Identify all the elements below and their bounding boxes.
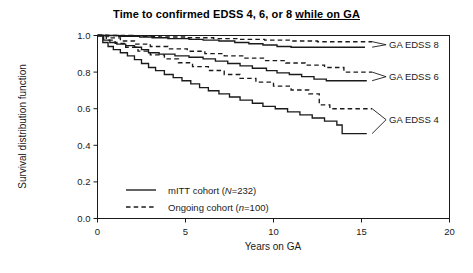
annotation-bracket bbox=[372, 109, 386, 134]
x-tick-label: 5 bbox=[183, 226, 188, 237]
y-tick-label: 1.0 bbox=[77, 30, 90, 41]
legend-label-prefix: Ongoing cohort ( bbox=[168, 202, 240, 213]
survival-plot: 0.00.20.40.60.81.0 05101520 Survival dis… bbox=[0, 0, 473, 273]
y-tick-label: 0.2 bbox=[77, 176, 90, 187]
y-tick-label: 0.4 bbox=[77, 140, 90, 151]
y-axis-ticks: 0.00.20.40.60.81.0 bbox=[77, 30, 97, 224]
annotation-label: GA EDSS 4 bbox=[389, 114, 439, 125]
annotation-label: GA EDSS 6 bbox=[389, 71, 439, 82]
x-tick-label: 10 bbox=[268, 226, 279, 237]
x-axis-ticks: 05101520 bbox=[95, 219, 455, 237]
plot-frame bbox=[98, 36, 450, 219]
legend-label: Ongoing cohort (n=100) bbox=[168, 202, 269, 213]
curve-group bbox=[98, 36, 373, 134]
y-tick-label: 0.6 bbox=[77, 103, 90, 114]
legend-label-suffix: =100) bbox=[244, 202, 269, 213]
legend-label-suffix: =232) bbox=[232, 185, 257, 196]
annotation-group: GA EDSS 8GA EDSS 6GA EDSS 4 bbox=[372, 39, 439, 134]
legend-label-prefix: mITT cohort ( bbox=[168, 185, 226, 196]
legend-label: mITT cohort (N=232) bbox=[168, 185, 256, 196]
x-tick-label: 15 bbox=[356, 226, 367, 237]
x-tick-label: 0 bbox=[95, 226, 100, 237]
curve-ga-edss-4-dashed bbox=[98, 36, 373, 109]
x-axis-title: Years on GA bbox=[245, 241, 302, 252]
annotation-bracket bbox=[372, 42, 386, 48]
legend: mITT cohort (N=232)Ongoing cohort (n=100… bbox=[126, 185, 269, 213]
x-tick-label: 20 bbox=[444, 226, 455, 237]
y-axis-title: Survival distribution function bbox=[17, 64, 28, 189]
annotation-label: GA EDSS 8 bbox=[389, 39, 439, 50]
annotation-bracket bbox=[372, 72, 386, 81]
y-tick-label: 0.8 bbox=[77, 67, 90, 78]
y-tick-label: 0.0 bbox=[77, 213, 90, 224]
figure-container: Time to confirmed EDSS 4, 6, or 8 while … bbox=[0, 0, 473, 273]
